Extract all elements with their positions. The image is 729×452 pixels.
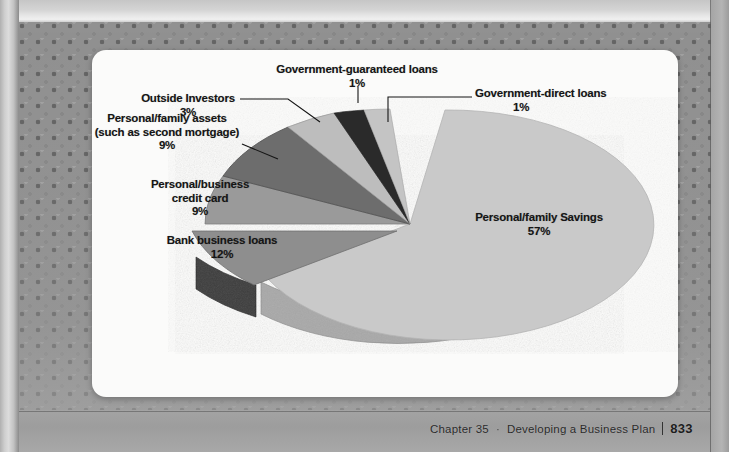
label-personal-family-assets: Personal/family assets (such as second m… bbox=[92, 112, 242, 153]
figure-card: Getting Started bbox=[92, 50, 678, 397]
page-top-light-strip bbox=[0, 0, 729, 22]
label-bank-business-loans: Bank business loans 12% bbox=[142, 234, 302, 261]
label-percent-government-guaranteed-loans: 1% bbox=[232, 77, 482, 91]
label-text-personal-family-assets-line1: Personal/family assets bbox=[107, 112, 227, 124]
label-text-personal-business-credit-card-line1: Personal/business bbox=[151, 178, 249, 190]
page-gutter bbox=[0, 0, 19, 452]
label-text-personal-family-assets-line2: (such as second mortgage) bbox=[95, 126, 240, 138]
footer-separator-dot: · bbox=[496, 423, 500, 435]
figure-card-inner: Getting Started bbox=[92, 50, 678, 397]
label-text-outside-investors: Outside Investors bbox=[141, 92, 235, 104]
footer-horizontal-rule bbox=[18, 411, 710, 412]
label-percent-personal-business-credit-card: 9% bbox=[130, 205, 270, 219]
page-vertical-rule bbox=[710, 0, 711, 452]
page-footer: Chapter 35 · Developing a Business Plan … bbox=[430, 421, 693, 436]
label-personal-family-savings: Personal/family Savings 57% bbox=[449, 211, 629, 238]
label-text-government-guaranteed-loans: Government-guaranteed loans bbox=[276, 63, 437, 75]
label-government-direct-loans: Government-direct loans 1% bbox=[475, 87, 675, 114]
label-text-personal-business-credit-card-line2: credit card bbox=[172, 192, 229, 204]
page-right-margin bbox=[711, 0, 729, 452]
footer-vertical-separator bbox=[662, 422, 663, 435]
scanned-book-page: Getting Started bbox=[0, 0, 729, 452]
label-text-government-direct-loans: Government-direct loans bbox=[475, 87, 607, 99]
footer-chapter-title: Developing a Business Plan bbox=[507, 423, 655, 435]
label-text-personal-family-savings: Personal/family Savings bbox=[475, 211, 603, 223]
label-personal-business-credit-card: Personal/business credit card 9% bbox=[130, 178, 270, 219]
label-percent-government-direct-loans: 1% bbox=[475, 101, 675, 115]
label-percent-personal-family-savings: 57% bbox=[449, 225, 629, 239]
leader-line-outside-investors bbox=[240, 99, 320, 122]
footer-page-number: 833 bbox=[670, 421, 692, 436]
footer-chapter: Chapter 35 bbox=[430, 423, 489, 435]
label-percent-bank-business-loans: 12% bbox=[142, 248, 302, 262]
label-text-bank-business-loans: Bank business loans bbox=[167, 234, 278, 246]
label-percent-personal-family-assets: 9% bbox=[92, 139, 242, 153]
label-government-guaranteed-loans: Government-guaranteed loans 1% bbox=[232, 63, 482, 90]
